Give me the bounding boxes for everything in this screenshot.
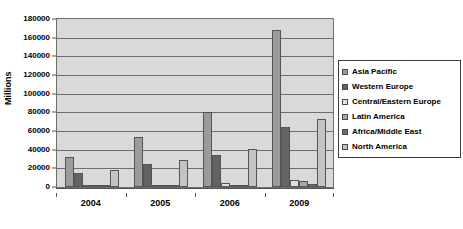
x-axis-tick-mark [333, 193, 334, 197]
y-axis-tick-label: 180000 [23, 15, 50, 23]
bar [101, 185, 110, 187]
x-axis-tick-mark [126, 193, 127, 197]
bar [221, 183, 230, 187]
legend-item: Central/Eastern Europe [342, 94, 457, 109]
x-axis-tick-mark [195, 193, 196, 197]
bar-group-2004 [57, 19, 126, 187]
legend-item: Africa/Middle East [342, 124, 457, 139]
bar-chart: Millions 1800001600001400001200001000008… [0, 0, 463, 229]
x-axis-line [56, 188, 334, 189]
y-axis-tick-label: 40000 [28, 146, 50, 154]
bar-groups [57, 19, 333, 187]
legend-swatch-icon [342, 99, 348, 105]
bar [143, 164, 152, 187]
y-axis-tick-label: 160000 [23, 34, 50, 42]
x-axis-tick-mark [56, 193, 57, 197]
bar [134, 137, 143, 187]
y-axis-tick-label: 0 [46, 183, 50, 191]
legend-item-label: Central/Eastern Europe [352, 97, 441, 106]
legend-item-label: Western Europe [352, 82, 413, 91]
bar [92, 185, 101, 187]
legend-swatch-icon [342, 114, 348, 120]
bar [230, 185, 239, 187]
x-axis-tick-cell: 2005 [126, 193, 196, 209]
legend-swatch-icon [342, 144, 348, 150]
legend-item: Latin America [342, 109, 457, 124]
chart-legend: Asia PacificWestern EuropeCentral/Easter… [338, 60, 461, 158]
bar [110, 170, 119, 187]
bar-group-2005 [126, 19, 195, 187]
legend-item: Western Europe [342, 79, 457, 94]
bar [317, 119, 326, 187]
bar [290, 180, 299, 187]
bar [74, 173, 83, 187]
x-axis-tick-labels: 2004200520062009 [56, 193, 334, 209]
legend-item-label: Latin America [352, 112, 405, 121]
y-axis-tick-label: 100000 [23, 90, 50, 98]
y-axis-tick-label: 60000 [28, 127, 50, 135]
legend-item-label: North America [352, 142, 407, 151]
x-axis-tick-label: 2004 [56, 198, 126, 208]
legend-swatch-icon [342, 69, 348, 75]
bar [83, 185, 92, 187]
bar [239, 185, 248, 187]
bar-group-2009 [264, 19, 333, 187]
bar [161, 185, 170, 187]
plot-area [56, 18, 334, 188]
bar [299, 181, 308, 187]
y-axis-tick-label: 120000 [23, 71, 50, 79]
bar [170, 185, 179, 187]
x-axis-tick-cell: 2009 [265, 193, 335, 209]
bar [248, 149, 257, 187]
bar [212, 155, 221, 187]
x-axis-tick-label: 2005 [126, 198, 196, 208]
legend-item-label: Asia Pacific [352, 67, 397, 76]
bar [272, 30, 281, 187]
legend-item-label: Africa/Middle East [352, 127, 421, 136]
legend-swatch-icon [342, 84, 348, 90]
legend-swatch-icon [342, 129, 348, 135]
bar-group-2006 [195, 19, 264, 187]
x-axis-tick-label: 2006 [195, 198, 265, 208]
x-axis-tick-mark [265, 193, 266, 197]
bar [308, 184, 317, 187]
bar [65, 157, 74, 187]
x-axis-tick-cell: 2004 [56, 193, 126, 209]
bar [152, 185, 161, 187]
legend-item: Asia Pacific [342, 64, 457, 79]
y-axis-tick-label: 20000 [28, 164, 50, 172]
y-axis-tick-label: 140000 [23, 52, 50, 60]
legend-item: North America [342, 139, 457, 154]
bar [179, 160, 188, 187]
bar [203, 112, 212, 187]
bar [281, 127, 290, 187]
x-axis-tick-label: 2009 [265, 198, 335, 208]
x-axis-tick-cell: 2006 [195, 193, 265, 209]
y-axis-tick-label: 80000 [28, 108, 50, 116]
y-axis-tick-labels: 1800001600001400001200001000008000060000… [6, 18, 52, 188]
